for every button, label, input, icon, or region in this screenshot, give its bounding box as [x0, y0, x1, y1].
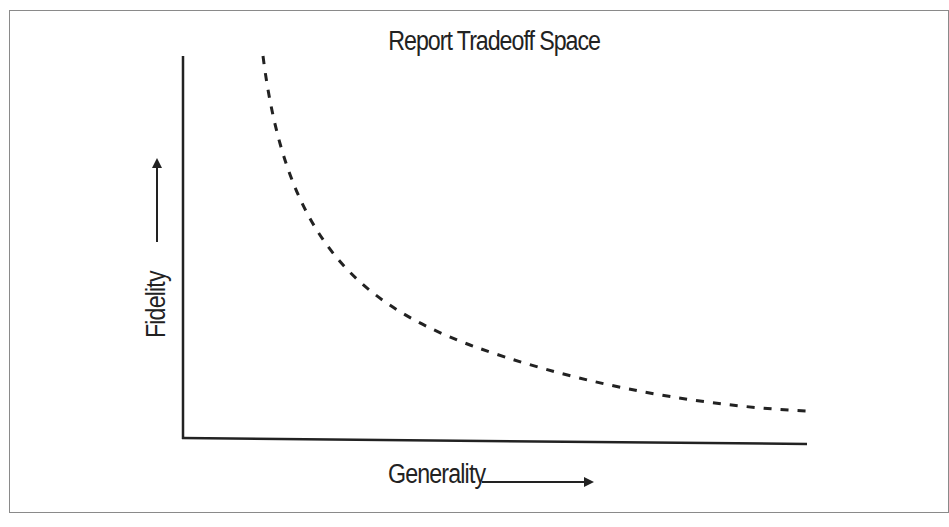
diagram-title: Report Tradeoff Space	[69, 26, 919, 57]
x-axis-label: Generality	[388, 459, 485, 490]
x-axis	[182, 438, 807, 444]
tradeoff-curve	[263, 56, 806, 411]
y-axis-label: Fidelity	[141, 271, 172, 338]
